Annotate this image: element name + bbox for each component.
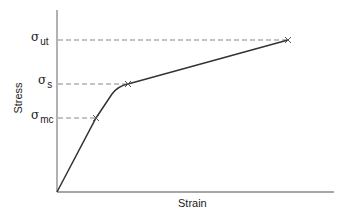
sigma-ut-label: σut xyxy=(31,30,49,47)
sigma-s-label: σs xyxy=(38,73,52,90)
y-axis-title: Stress xyxy=(12,82,24,113)
stress-strain-chart: σut σs σmc Stress Strain xyxy=(0,0,349,215)
stress-strain-curve xyxy=(57,40,288,192)
sigma-symbol: σ xyxy=(38,73,46,87)
sigma-symbol: σ xyxy=(31,30,39,44)
subscript-ut: ut xyxy=(40,36,48,47)
subscript-s: s xyxy=(47,79,52,90)
subscript-mc: mc xyxy=(40,114,53,125)
x-axis-title: Strain xyxy=(178,197,207,209)
sigma-mc-label: σmc xyxy=(31,108,54,125)
sigma-symbol: σ xyxy=(31,108,39,122)
